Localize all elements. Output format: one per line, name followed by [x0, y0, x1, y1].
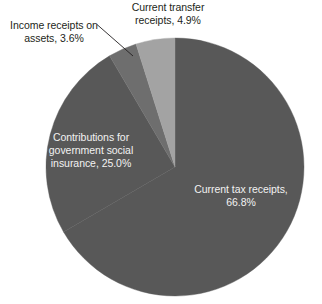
slice-label-current-transfer-receipts: Current transfer receipts, 4.9% [112, 1, 224, 27]
slice-label-contributions-social-insurance: Contributions for government social insu… [38, 131, 144, 170]
pie-chart-figure: Current transfer receipts, 4.9% Income r… [0, 0, 322, 304]
slice-label-current-tax-receipts: Current tax receipts, 66.8% [185, 183, 297, 209]
slice-label-income-receipts-assets: Income receipts on assets, 3.6% [2, 19, 106, 45]
